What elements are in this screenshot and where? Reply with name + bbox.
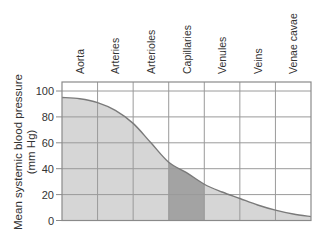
pressure-area: [62, 97, 311, 220]
category-label-aorta: Aorta: [74, 49, 86, 74]
blood-pressure-chart: 020406080100 AortaArteriesArteriolesCapi…: [0, 0, 324, 239]
y-tick-label: 40: [42, 163, 54, 175]
y-axis-title: Mean systemic blood pressure (mm Hg): [12, 74, 37, 230]
y-tick-label: 80: [42, 111, 54, 123]
category-label-venules: Venules: [216, 37, 228, 74]
y-axis-title-line1: Mean systemic blood pressure: [12, 74, 24, 230]
y-axis-title-line2: (mm Hg): [25, 129, 37, 174]
category-label-venae-cavae: Venae cavae: [287, 13, 299, 74]
y-tick-label: 100: [36, 85, 54, 97]
category-label-arterioles: Arterioles: [145, 30, 157, 74]
y-tick-label: 60: [42, 137, 54, 149]
category-label-arteries: Arteries: [109, 38, 121, 74]
category-labels: AortaArteriesArteriolesCapillariesVenule…: [74, 13, 299, 74]
y-tick-label: 20: [42, 189, 54, 201]
category-label-veins: Veins: [252, 48, 264, 74]
category-label-capillaries: Capillaries: [181, 25, 193, 74]
y-tick-label: 0: [48, 215, 54, 227]
y-axis-ticks: 020406080100: [36, 85, 62, 227]
